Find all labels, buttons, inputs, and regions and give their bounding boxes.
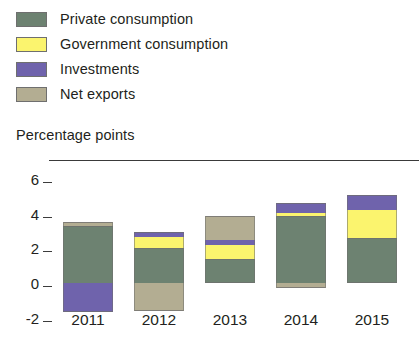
y-tick-mark — [43, 251, 52, 252]
bar-segment-2012-government_consumption[interactable] — [134, 237, 184, 248]
y-tick-label: -2 — [26, 311, 39, 326]
bar-segment-2015-private_consumption[interactable] — [347, 238, 397, 283]
y-tick-2: 2 — [0, 241, 52, 256]
bar-segment-2012-private_consumption[interactable] — [134, 248, 184, 283]
legend-item-net_exports: Net exports — [16, 82, 316, 107]
legend-item-government_consumption: Government consumption — [16, 32, 316, 57]
y-tick-mark — [43, 182, 52, 183]
bar-segment-2013-government_consumption[interactable] — [205, 245, 255, 259]
legend-swatch-private_consumption — [16, 12, 47, 27]
y-tick-label: 6 — [31, 172, 39, 187]
legend-swatch-government_consumption — [16, 37, 47, 52]
y-tick-mark — [43, 286, 52, 287]
legend-label-net_exports: Net exports — [60, 87, 135, 102]
y-tick-label: 2 — [31, 241, 39, 256]
legend-label-private_consumption: Private consumption — [60, 12, 193, 27]
legend-swatch-net_exports — [16, 87, 47, 102]
bar-segment-2013-net_exports[interactable] — [205, 216, 255, 240]
bar-segment-2014-private_consumption[interactable] — [276, 216, 326, 283]
y-tick-mark — [43, 217, 52, 218]
legend-label-government_consumption: Government consumption — [60, 37, 228, 52]
legend-swatch-investments — [16, 62, 47, 77]
bar-segment-2014-net_exports[interactable] — [276, 283, 326, 288]
y-tick-mark — [43, 321, 52, 322]
y-tick-label: 4 — [31, 207, 39, 222]
y-tick-4: 4 — [0, 207, 52, 222]
x-axis-label-2015: 2015 — [339, 312, 405, 328]
legend-item-private_consumption: Private consumption — [16, 7, 316, 32]
legend-label-investments: Investments — [60, 62, 139, 77]
bar-segment-2012-investments[interactable] — [134, 232, 184, 237]
x-axis-label-2014: 2014 — [268, 312, 334, 328]
bar-segment-2014-government_consumption[interactable] — [276, 213, 326, 216]
chart-plot-area: 6420-2 20112012201320142015 — [0, 160, 419, 349]
y-tick-6: 6 — [0, 172, 52, 187]
bar-segment-2015-government_consumption[interactable] — [347, 210, 397, 238]
y-tick-label: 0 — [31, 276, 39, 291]
y-tick-0: 0 — [0, 276, 52, 291]
chart-legend: Private consumptionGovernment consumptio… — [16, 7, 316, 107]
bar-segment-2013-private_consumption[interactable] — [205, 259, 255, 283]
x-axis-label-2011: 2011 — [55, 312, 121, 328]
bar-segment-2014-investments[interactable] — [276, 203, 326, 213]
x-axis-label-2012: 2012 — [126, 312, 192, 328]
y-tick-neg2: -2 — [0, 311, 52, 326]
bar-segment-2011-private_consumption[interactable] — [63, 226, 113, 283]
bar-segment-2011-net_exports[interactable] — [63, 222, 113, 226]
bar-segment-2012-net_exports[interactable] — [134, 283, 184, 311]
bar-segment-2015-investments[interactable] — [347, 195, 397, 211]
legend-item-investments: Investments — [16, 57, 316, 82]
bar-segment-2011-investments[interactable] — [63, 283, 113, 312]
y-axis-title: Percentage points — [16, 127, 135, 143]
bar-segment-2013-investments[interactable] — [205, 240, 255, 245]
x-axis-label-2013: 2013 — [197, 312, 263, 328]
